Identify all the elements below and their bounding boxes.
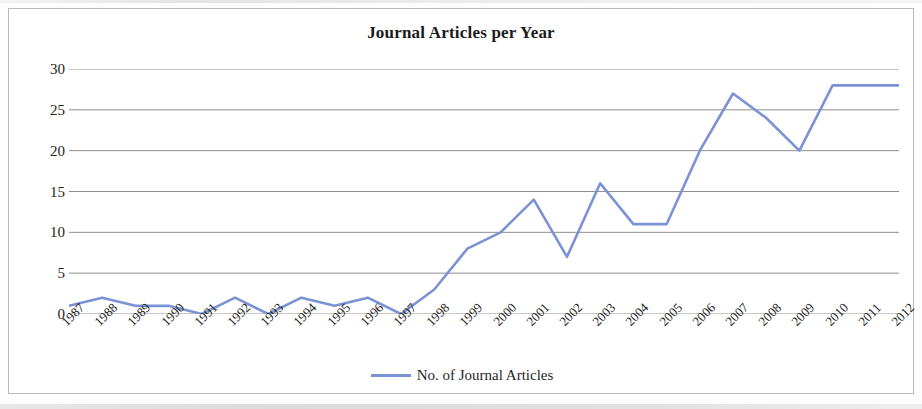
chart-frame: Journal Articles per Year 302520151050 1… <box>8 8 914 394</box>
y-tick-label-20: 20 <box>31 143 65 158</box>
scan-artifact-bottom <box>0 404 922 409</box>
line-chart-svg <box>69 69 899 314</box>
legend-line-swatch <box>371 374 411 377</box>
series-line-no-of-journal-articles <box>69 85 899 314</box>
x-axis-tick-labels: 1987198819891990199119921993199419951996… <box>69 315 899 373</box>
y-tick-label-10: 10 <box>31 225 65 240</box>
chart-title: Journal Articles per Year <box>9 23 913 43</box>
legend-entry-label: No. of Journal Articles <box>417 367 554 384</box>
y-tick-label-30: 30 <box>31 62 65 77</box>
scan-artifact-top <box>0 0 922 3</box>
y-tick-label-25: 25 <box>31 102 65 117</box>
y-axis-tick-labels: 302520151050 <box>21 69 65 314</box>
y-tick-label-15: 15 <box>31 184 65 199</box>
chart-legend: No. of Journal Articles <box>9 367 915 384</box>
gridlines <box>69 69 899 314</box>
chart-screenshot: Journal Articles per Year 302520151050 1… <box>0 0 922 409</box>
y-tick-label-5: 5 <box>31 266 65 281</box>
plot-area <box>69 69 899 314</box>
